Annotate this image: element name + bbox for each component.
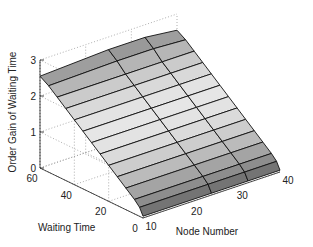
z-tick-label: 1 (30, 127, 36, 138)
z-axis-label: Order Gain of Waiting Time (7, 51, 18, 172)
y-axis-label: Waiting Time (38, 222, 96, 233)
surface-chart: 0123020406010203040 Order Gain of Waitin… (0, 0, 313, 247)
x-tick-label: 30 (237, 190, 249, 201)
plot-area: 0123020406010203040 Order Gain of Waitin… (0, 0, 313, 247)
y-tick-label: 40 (61, 190, 73, 201)
x-axis-label: Node Number (176, 226, 239, 237)
y-tick-label: 60 (26, 173, 38, 184)
surface-mesh (40, 30, 280, 216)
y-tick-label: 0 (132, 223, 138, 234)
x-tick-label: 10 (145, 221, 157, 232)
z-tick-label: 3 (30, 55, 36, 66)
x-tick-label: 20 (191, 206, 203, 217)
z-tick-label: 2 (30, 91, 36, 102)
y-tick-label: 20 (95, 206, 107, 217)
x-tick-label: 40 (282, 175, 294, 186)
